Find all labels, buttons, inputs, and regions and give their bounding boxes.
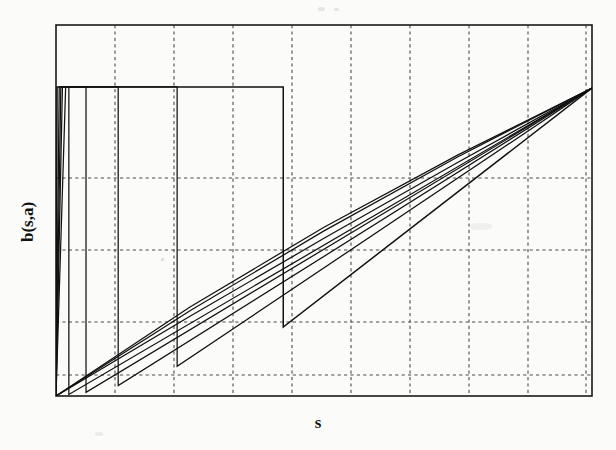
plot-canvas: b(s,a) s bbox=[0, 0, 616, 450]
scan-speck bbox=[161, 258, 164, 261]
scan-speck bbox=[334, 8, 339, 11]
page-background bbox=[0, 0, 616, 450]
y-axis-label: b(s,a) bbox=[18, 202, 37, 242]
scan-speck bbox=[318, 7, 325, 11]
figure-container: b(s,a) s bbox=[0, 0, 616, 450]
scan-speck bbox=[95, 432, 103, 436]
x-axis-label: s bbox=[315, 413, 322, 432]
scan-speck bbox=[470, 223, 492, 230]
